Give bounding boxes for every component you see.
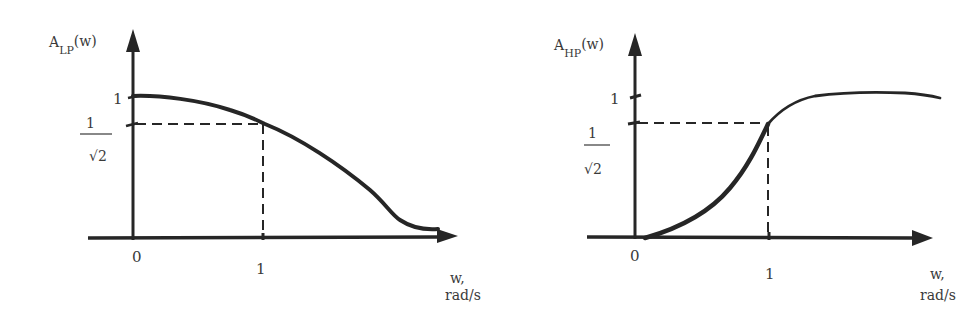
hp-response-curve-rising: [645, 124, 768, 238]
lp-x-axis-var-label: w,: [450, 270, 465, 286]
lp-y-axis-arrow-icon: [126, 29, 140, 52]
lp-origin-label: 0: [132, 248, 142, 266]
lp-y-tick-frac-label: 1 √2: [80, 115, 112, 164]
lp-response-curve: [133, 96, 438, 229]
lp-x-axis-arrow-icon: [437, 229, 458, 243]
highpass-plot: AHP(w) 1 1 √2 0 1 w, rad/s: [553, 33, 956, 303]
hp-y-tick-one-label: 1: [610, 90, 620, 108]
lowpass-plot: ALP(w) 1 1 √2 0 1 w, rad/s: [48, 29, 481, 303]
hp-response-curve-plateau: [768, 92, 940, 124]
lp-y-axis-label: ALP(w): [48, 33, 97, 57]
hp-x-axis-unit-label: rad/s: [920, 287, 956, 303]
svg-text:1: 1: [86, 115, 95, 131]
hp-x-axis-var-label: w,: [930, 266, 945, 282]
lp-x-axis-unit-label: rad/s: [445, 287, 481, 303]
hp-x-tick-one-label: 1: [765, 265, 775, 283]
hp-y-tick-one: [630, 95, 641, 98]
lp-y-tick-one-label: 1: [113, 90, 123, 108]
lp-x-tick-one-label: 1: [256, 260, 266, 278]
hp-y-tick-frac-label: 1 √2: [584, 125, 610, 177]
hp-y-axis-label: AHP(w): [553, 36, 604, 60]
filter-response-diagram: ALP(w) 1 1 √2 0 1 w, rad/s AHP(: [0, 0, 977, 323]
hp-x-axis-arrow-icon: [912, 230, 933, 246]
svg-text:√2: √2: [89, 148, 107, 164]
hp-origin-label: 0: [630, 247, 640, 265]
hp-y-axis-arrow-icon: [628, 33, 642, 56]
svg-text:1: 1: [588, 125, 597, 141]
svg-text:√2: √2: [584, 161, 602, 177]
